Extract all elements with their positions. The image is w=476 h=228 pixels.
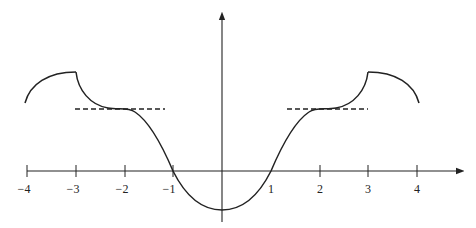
tick-label: 2 — [317, 182, 323, 196]
tick-label: −3 — [67, 182, 80, 196]
tick-label: −4 — [18, 182, 31, 196]
tick-label: −2 — [116, 182, 129, 196]
curve-right-cap — [368, 72, 419, 103]
function-graph: −4 −3 −2 −1 1 2 3 4 — [0, 0, 476, 228]
tick-label: 4 — [414, 182, 420, 196]
tick-label: −1 — [163, 182, 176, 196]
tick-label: 1 — [268, 182, 274, 196]
curve-left-cap — [25, 72, 76, 103]
tick-label: 3 — [365, 182, 371, 196]
x-tick-labels: −4 −3 −2 −1 1 2 3 4 — [18, 182, 420, 196]
